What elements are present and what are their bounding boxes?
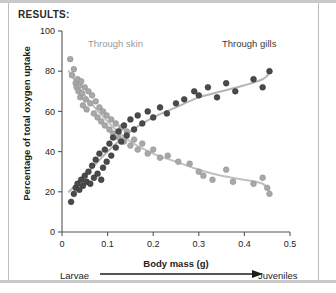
data-point	[67, 56, 73, 62]
data-point	[78, 78, 84, 84]
data-point	[104, 113, 110, 119]
data-point	[223, 80, 229, 86]
data-point	[135, 147, 141, 153]
data-point	[95, 171, 101, 177]
data-point	[93, 98, 99, 104]
data-point	[124, 133, 130, 139]
data-point	[68, 199, 74, 205]
data-point	[150, 115, 156, 121]
data-point	[210, 177, 216, 183]
x-tick-label: 0	[59, 239, 64, 249]
x-tick-label: 0.4	[238, 239, 251, 249]
data-point	[127, 117, 133, 123]
x-tick-label: 0.3	[193, 239, 206, 249]
data-points-layer	[67, 56, 272, 205]
data-point	[69, 72, 75, 78]
data-point	[87, 181, 93, 187]
data-point	[205, 84, 211, 90]
stage-arrow-icon	[100, 270, 263, 278]
data-point	[191, 88, 197, 94]
data-point	[86, 169, 92, 175]
data-point	[127, 143, 133, 149]
data-point	[230, 179, 236, 185]
data-point	[164, 111, 170, 117]
data-point	[84, 106, 90, 112]
data-point	[87, 100, 93, 106]
data-point	[108, 117, 114, 123]
data-point	[260, 84, 266, 90]
axes-layer: 02040608010000.10.20.30.40.5	[40, 26, 296, 249]
data-point	[79, 90, 85, 96]
data-point	[232, 88, 238, 94]
data-point	[196, 169, 202, 175]
data-point	[107, 141, 113, 147]
data-point	[181, 96, 187, 102]
data-point	[110, 135, 116, 141]
data-point	[104, 159, 110, 165]
data-point	[251, 76, 257, 82]
data-point	[121, 123, 127, 129]
data-point	[113, 145, 119, 151]
data-point	[145, 109, 151, 115]
data-point	[116, 129, 122, 135]
scatter-plot: 02040608010000.10.20.30.40.5	[0, 0, 336, 293]
data-point	[139, 121, 145, 127]
data-point	[93, 157, 99, 163]
data-point	[175, 159, 181, 165]
data-point	[96, 151, 102, 157]
y-tick-label: 80	[45, 66, 55, 76]
data-point	[98, 177, 104, 183]
x-tick-label: 0.5	[284, 239, 297, 249]
data-point	[173, 100, 179, 106]
data-point	[139, 141, 145, 147]
data-point	[165, 153, 171, 159]
data-point	[260, 175, 266, 181]
data-point	[214, 94, 220, 100]
data-point	[113, 121, 119, 127]
data-point	[131, 137, 137, 143]
data-point	[83, 96, 89, 102]
y-tick-label: 40	[45, 147, 55, 157]
y-tick-label: 100	[40, 26, 55, 36]
data-point	[145, 151, 151, 157]
data-point	[118, 139, 124, 145]
y-tick-label: 20	[45, 187, 55, 197]
data-point	[187, 161, 193, 167]
data-point	[71, 191, 77, 197]
data-point	[135, 113, 141, 119]
y-tick-label: 0	[50, 227, 55, 237]
data-point	[150, 147, 156, 153]
data-point	[108, 153, 114, 159]
data-point	[157, 104, 163, 110]
data-point	[223, 167, 229, 173]
data-point	[100, 165, 106, 171]
x-tick-label: 0.1	[101, 239, 114, 249]
data-point	[196, 92, 202, 98]
data-point	[71, 66, 77, 72]
data-point	[251, 181, 257, 187]
data-point	[89, 92, 95, 98]
data-point	[157, 155, 163, 161]
y-tick-label: 60	[45, 107, 55, 117]
data-point	[200, 173, 206, 179]
data-point	[264, 185, 270, 191]
data-point	[267, 191, 273, 197]
data-point	[131, 127, 137, 133]
data-point	[102, 123, 108, 129]
data-point	[267, 68, 273, 74]
data-point	[102, 147, 108, 153]
data-point	[89, 163, 95, 169]
results-figure: RESULTS: Percentage of total oxygen upta…	[0, 0, 336, 293]
x-tick-label: 0.2	[147, 239, 160, 249]
